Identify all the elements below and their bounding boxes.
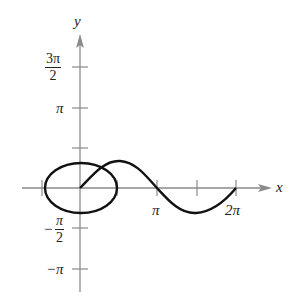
y-axis-label: y bbox=[74, 14, 81, 29]
x-tick-label-2pi: 2π bbox=[225, 203, 240, 218]
y-tick-label-pi: π bbox=[56, 101, 64, 116]
y-tick-label-3pi2: 3π 2 bbox=[45, 52, 61, 83]
y-tick-label-negpi2-sign: − bbox=[44, 222, 52, 237]
y-tick-label-negpi2: π 2 bbox=[55, 214, 64, 245]
y-tick-label-negpi: −π bbox=[46, 262, 64, 277]
x-axis-label: x bbox=[276, 180, 283, 195]
chart-canvas bbox=[0, 0, 295, 305]
x-tick-label-pi: π bbox=[152, 203, 160, 218]
